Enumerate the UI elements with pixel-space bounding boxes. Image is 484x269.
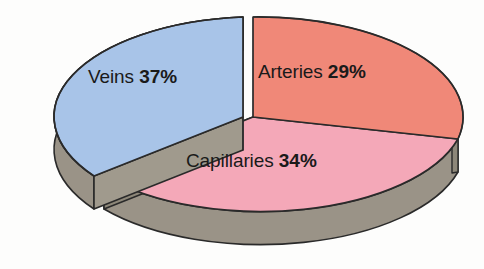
pie-chart-graphic: [0, 0, 484, 269]
pie-chart: Arteries 29% Veins 37% Capillaries 34%: [0, 0, 484, 269]
slice-arteries[interactable]: [253, 17, 463, 139]
